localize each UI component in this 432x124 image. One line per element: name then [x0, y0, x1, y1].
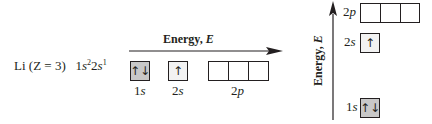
level-box-1s: ↑↓: [360, 98, 380, 118]
orbital-box-2s: ↑: [168, 61, 188, 81]
level-cell-2p-3: [401, 4, 419, 22]
config-1s: 1s2: [76, 58, 92, 73]
electron-up-arrow: ↑: [173, 65, 183, 77]
level-cell-2p-1: [361, 4, 381, 22]
atomic-number: (Z = 3): [29, 58, 66, 73]
orbital-cell-2p-2: [229, 62, 249, 80]
level-box-2s: ↑: [360, 33, 380, 53]
horizontal-energy-arrow: [128, 45, 284, 57]
orbital-label-2s: 2s: [172, 83, 184, 99]
element-symbol: Li: [14, 58, 26, 73]
level-box-2p: [360, 3, 420, 23]
orbital-label-2p: 2p: [231, 83, 244, 99]
vertical-energy-axis-label: Energy, E: [311, 35, 326, 86]
orbital-label-1s: 1s: [134, 83, 146, 99]
vertical-energy-arrow: [327, 0, 339, 122]
electron-up-arrow: ↑: [365, 37, 375, 49]
level-label-1s: 1s: [346, 99, 358, 115]
orbital-box-1s: ↑↓: [130, 61, 150, 81]
orbital-cell-2p-3: [249, 62, 268, 80]
orbital-cell-2p-1: [209, 62, 229, 80]
level-cell-2p-2: [381, 4, 401, 22]
orbital-box-2p: [208, 61, 269, 81]
electron-configuration-label: Li (Z = 3) 1s22s1: [14, 58, 107, 74]
electron-pair-arrows: ↑↓: [360, 102, 380, 114]
config-2s: 2s1: [91, 58, 107, 73]
level-label-2s: 2s: [344, 34, 356, 50]
level-label-2p: 2p: [343, 4, 356, 20]
electron-pair-arrows: ↑↓: [130, 65, 150, 77]
